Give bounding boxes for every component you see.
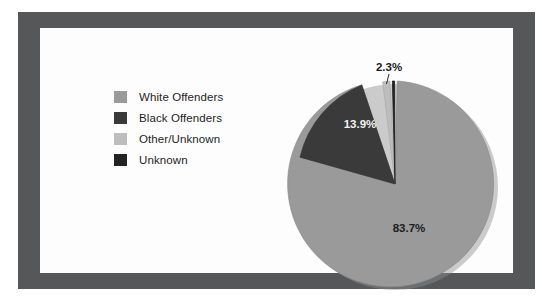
pie-label-other-unknown: 2.3% (376, 61, 402, 73)
legend-item-label: White Offenders (139, 91, 223, 103)
legend-item-label: Other/Unknown (139, 133, 220, 145)
pie-label-black-offenders: 13.9% (344, 118, 377, 130)
pie-chart: 2.3% 13.9% 83.7% (276, 60, 526, 300)
pie-label-white-offenders: 83.7% (393, 222, 426, 234)
legend-item-white-offenders[interactable]: White Offenders (114, 86, 274, 107)
legend-swatch-icon (114, 112, 127, 124)
legend-item-label: Unknown (139, 154, 188, 166)
screenshot-root: White Offenders Black Offenders Other/Un… (0, 0, 553, 300)
chart-legend: White Offenders Black Offenders Other/Un… (114, 86, 274, 170)
pie-chart-svg: 2.3% 13.9% 83.7% (276, 60, 526, 300)
legend-swatch-icon (114, 133, 127, 145)
legend-swatch-icon (114, 91, 127, 103)
legend-item-label: Black Offenders (139, 112, 222, 124)
chart-frame-border: White Offenders Black Offenders Other/Un… (18, 12, 535, 289)
legend-item-other-unknown[interactable]: Other/Unknown (114, 128, 274, 149)
legend-item-black-offenders[interactable]: Black Offenders (114, 107, 274, 128)
legend-item-unknown[interactable]: Unknown (114, 149, 274, 170)
legend-swatch-icon (114, 154, 127, 166)
chart-plot-area: White Offenders Black Offenders Other/Un… (40, 28, 513, 273)
